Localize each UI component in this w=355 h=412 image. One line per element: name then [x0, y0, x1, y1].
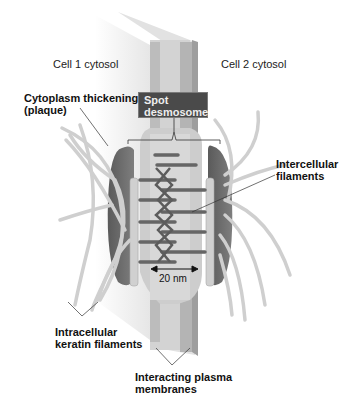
spot-label-line2: desmosome: [144, 106, 207, 118]
cell1-cytosol-label: Cell 1 cytosol: [53, 58, 118, 70]
plaque-label-line2: (plaque): [24, 104, 138, 116]
keratin-filaments-label: Intracellular keratin filaments: [55, 326, 142, 350]
membranes-label-line1: Interacting plasma: [135, 371, 232, 383]
plaque-label-line1: Cytoplasm thickening: [24, 92, 138, 104]
desmosome-diagram: Cell 1 cytosol Cell 2 cytosol Cytoplasm …: [0, 0, 355, 412]
spot-label-line1: Spot: [144, 94, 207, 106]
intercellular-label-line1: Intercellular: [276, 158, 338, 170]
spot-desmosome-label: Spot desmosome: [138, 92, 208, 118]
keratin-filaments-right: [215, 112, 290, 320]
intercellular-label-line2: filaments: [276, 170, 338, 182]
plasma-membranes-label: Interacting plasma membranes: [135, 371, 232, 395]
intercellular-filaments-label: Intercellular filaments: [276, 158, 338, 182]
membranes-label-line2: membranes: [135, 383, 232, 395]
keratin-label-line1: Intracellular: [55, 326, 142, 338]
scale-label: 20 nm: [159, 273, 187, 284]
keratin-label-line2: keratin filaments: [55, 338, 142, 350]
plaque-label: Cytoplasm thickening (plaque): [24, 92, 138, 116]
cell2-cytosol-label: Cell 2 cytosol: [221, 58, 286, 70]
